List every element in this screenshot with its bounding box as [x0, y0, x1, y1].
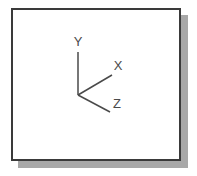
- axes-diagram-svg: Y X Z: [13, 10, 179, 159]
- x-axis-label: X: [114, 58, 123, 73]
- axes-diagram: Y X Z: [13, 10, 179, 159]
- z-axis-label: Z: [113, 96, 121, 111]
- z-axis-line: [78, 95, 110, 112]
- coordinate-axes-panel: Y X Z: [11, 8, 181, 161]
- page-root: Y X Z: [0, 0, 197, 176]
- y-axis-label: Y: [74, 34, 83, 49]
- x-axis-line: [78, 75, 112, 95]
